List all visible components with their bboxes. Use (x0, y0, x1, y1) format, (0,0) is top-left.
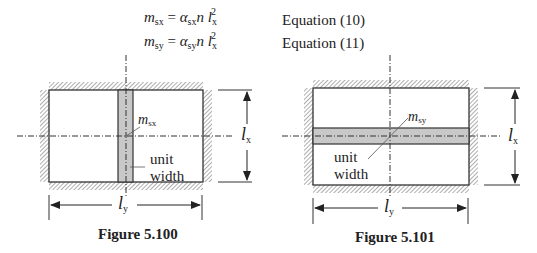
top-support-hatch (313, 80, 469, 88)
unit-width-strip (313, 128, 469, 144)
bottom-support-hatch (313, 185, 469, 193)
fig101-dim-ly-sub: y (389, 206, 394, 217)
figure-5-101-caption: Figure 5.101 (355, 229, 435, 246)
fig101-dim-lx: lx (508, 125, 518, 146)
fig101-moment-sub: sy (418, 115, 426, 125)
fig101-width-label: width (334, 166, 368, 183)
fig100-width-label: width (150, 168, 184, 185)
fig100-dim-ly: ly (118, 193, 128, 214)
diagram-canvas (0, 0, 537, 253)
fig100-dim-ly-sub: y (123, 203, 128, 214)
fig100-moment-symbol: m (138, 112, 148, 127)
fig101-moment-symbol: m (408, 109, 418, 124)
fig101-dim-ly: ly (384, 196, 394, 217)
fig101-moment-label: msy (408, 109, 426, 125)
fig100-moment-label: msx (138, 112, 156, 128)
fig100-dim-lx-sub: x (246, 134, 251, 145)
fig100-unit-label: unit (150, 151, 173, 168)
fig101-dim-lx-sub: x (513, 135, 518, 146)
fig101-unit-label: unit (334, 149, 357, 166)
figure-5-100-drawing (17, 55, 252, 220)
figure-5-100-caption: Figure 5.100 (98, 226, 178, 243)
figure-5-101-drawing (282, 55, 520, 224)
fig100-dim-lx: lx (241, 124, 251, 145)
fig100-moment-sub: sx (148, 118, 156, 128)
